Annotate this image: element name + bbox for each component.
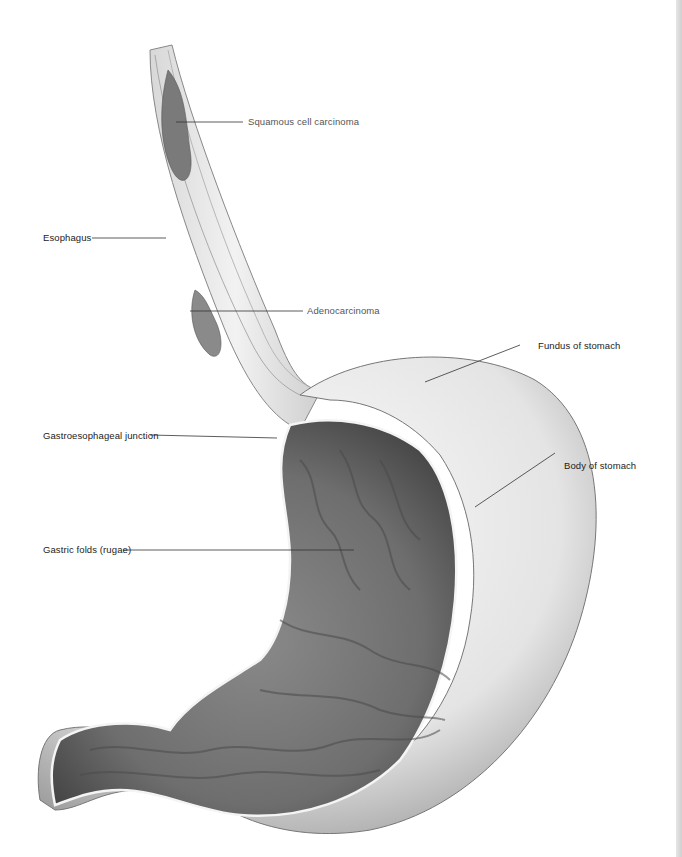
label-esophagus: Esophagus [43,232,91,243]
label-fundus-of-stomach: Fundus of stomach [538,340,621,351]
stomach-lumen [52,420,457,815]
stomach-illustration [0,0,682,857]
label-gastric-folds: Gastric folds (rugae) [43,544,131,555]
label-body-of-stomach: Body of stomach [564,460,636,471]
label-adenocarcinoma: Adenocarcinoma [307,305,380,316]
page-edge [676,0,682,857]
label-gastroesophageal-junction: Gastroesophageal junction [43,430,159,441]
label-squamous-cell-carcinoma: Squamous cell carcinoma [248,116,359,127]
squamous-tumor [162,70,191,180]
